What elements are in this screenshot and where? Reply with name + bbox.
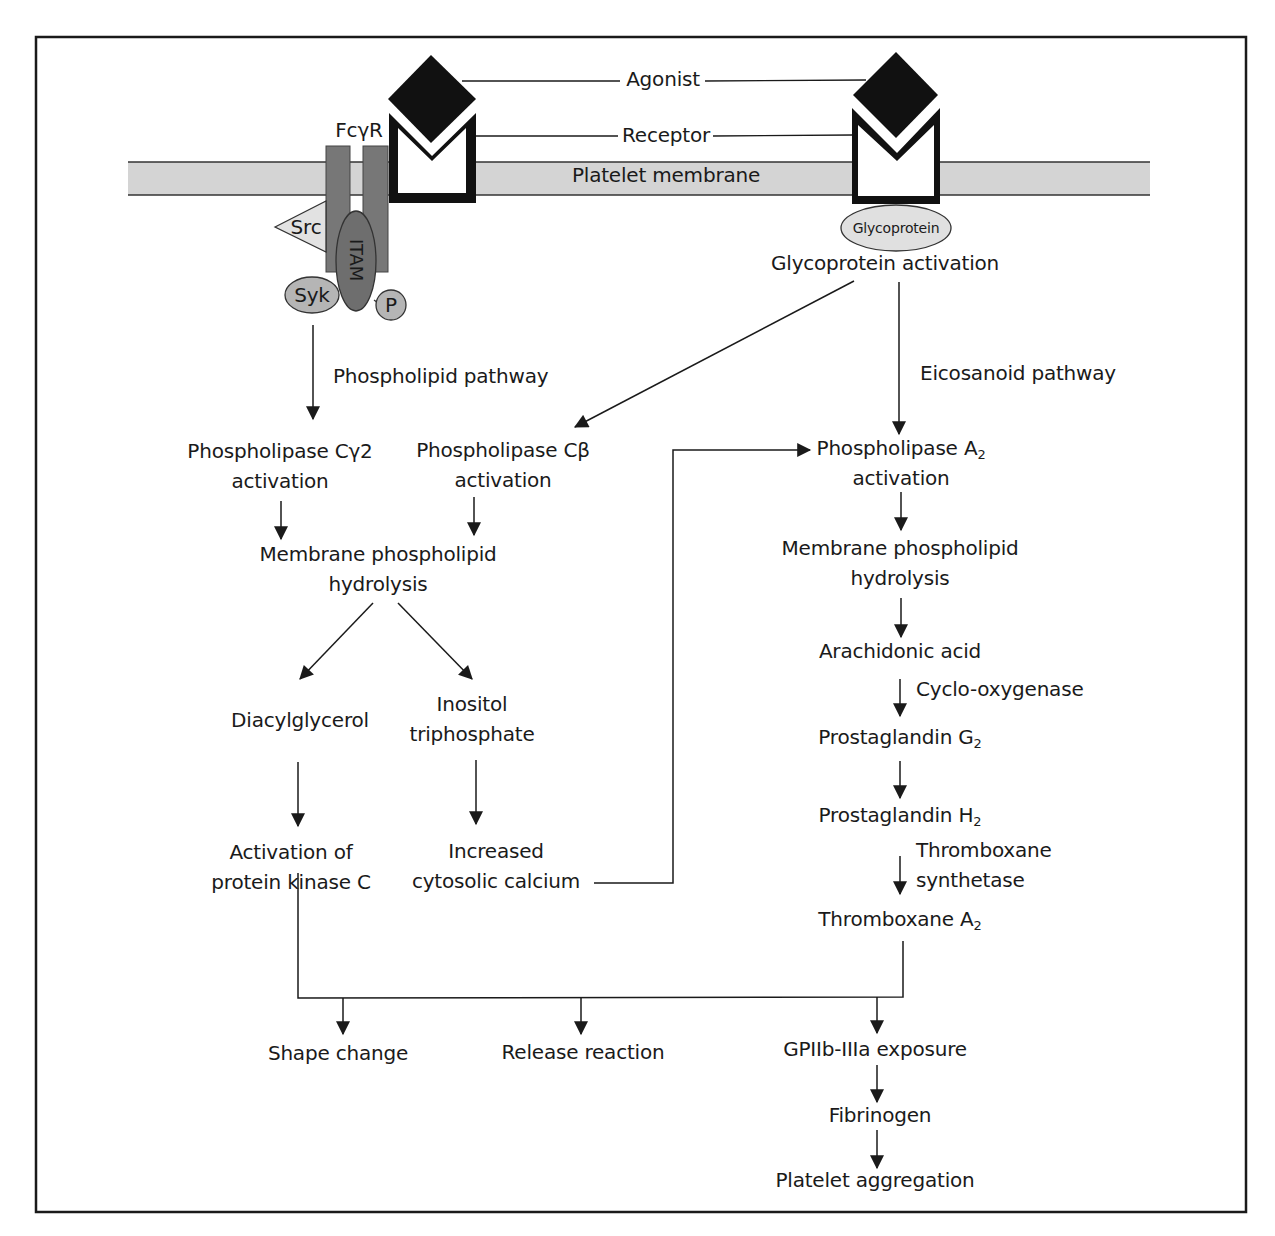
glycoprotein-activation-label: Glycoprotein activation [760,248,1010,278]
right-hydrolysis-line2: hydrolysis [760,563,1040,593]
ip3-line1: Inositol [392,689,552,719]
fibrinogen-node: Fibrinogen [800,1100,960,1130]
thromboxane-synthetase-label: Thromboxane synthetase [916,835,1052,895]
plc-beta-node: Phospholipase Cβ activation [398,435,608,495]
calcium-node: Increased cytosolic calcium [400,836,592,896]
platelet-membrane-label: Platelet membrane [560,160,772,190]
connector-pkc-txa2-bus [298,873,903,998]
receptor-label: Receptor [617,120,715,150]
cyclo-oxygenase-label: Cyclo-oxygenase [916,674,1084,704]
itam-label: ITAM [341,230,371,290]
platelet-aggregation-node: Platelet aggregation [760,1165,990,1195]
shape-change-node: Shape change [248,1038,428,1068]
phospholipid-pathway-label: Phospholipid pathway [333,361,548,391]
plc-gamma2-line1: Phospholipase Cγ2 [170,436,390,466]
pla2-line1: Phospholipase A2 [806,433,996,463]
agonist-label: Agonist [620,64,706,94]
gpiib-iiia-node: GPIIb-IIIa exposure [760,1034,990,1064]
pgh2-node: Prostaglandin H2 [805,800,995,830]
diacylglycerol-node: Diacylglycerol [220,705,380,735]
plc-beta-line2: activation [398,465,608,495]
plc-gamma2-node: Phospholipase Cγ2 activation [170,436,390,496]
txs-line1: Thromboxane [916,835,1052,865]
receptor-leader-right [713,135,852,136]
txs-line2: synthetase [916,865,1052,895]
plc-beta-line1: Phospholipase Cβ [398,435,608,465]
fcgr-label: FcγR [324,115,394,145]
syk-label: Syk [288,280,336,310]
arrow-calcium-to-pla2 [594,450,810,883]
pkc-node: Activation of protein kinase C [196,837,386,897]
pla2-node: Phospholipase A2 activation [806,433,996,493]
src-label: Src [286,212,326,242]
ip3-line2: triphosphate [392,719,552,749]
pkc-line2: protein kinase C [196,867,386,897]
plc-gamma2-line2: activation [170,466,390,496]
right-hydrolysis-line1: Membrane phospholipid [760,533,1040,563]
left-hydrolysis-line2: hydrolysis [238,569,518,599]
calcium-line2: cytosolic calcium [400,866,592,896]
glycoprotein-oval-label: Glycoprotein [841,213,951,243]
pla2-line2: activation [806,463,996,493]
arachidonic-acid-node: Arachidonic acid [800,636,1000,666]
txa2-node: Thromboxane A2 [805,904,995,934]
arrow-hydrolysis-to-dag [300,603,373,679]
left-hydrolysis-node: Membrane phospholipid hydrolysis [238,539,518,599]
phosphate-label: P [378,290,404,320]
right-hydrolysis-node: Membrane phospholipid hydrolysis [760,533,1040,593]
left-hydrolysis-line1: Membrane phospholipid [238,539,518,569]
ip3-node: Inositol triphosphate [392,689,552,749]
platelet-activation-diagram: Agonist Receptor Platelet membrane FcγR … [0,0,1275,1236]
arrow-glyco-to-plcb [575,281,854,427]
agonist-leader-right [705,80,866,81]
arrow-hydrolysis-to-ip3 [398,603,472,679]
calcium-line1: Increased [400,836,592,866]
eicosanoid-pathway-label: Eicosanoid pathway [920,358,1116,388]
release-reaction-node: Release reaction [483,1037,683,1067]
outer-frame [36,37,1246,1212]
pkc-line1: Activation of [196,837,386,867]
pgg2-node: Prostaglandin G2 [805,722,995,752]
